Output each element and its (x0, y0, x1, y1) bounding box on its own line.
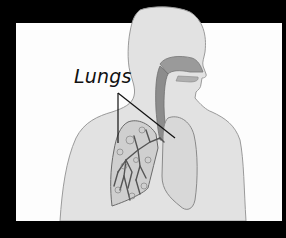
respiratory-diagram (0, 0, 286, 238)
lungs-label: Lungs (74, 65, 132, 87)
body-silhouette (60, 7, 246, 221)
oral-cavity (176, 76, 198, 82)
